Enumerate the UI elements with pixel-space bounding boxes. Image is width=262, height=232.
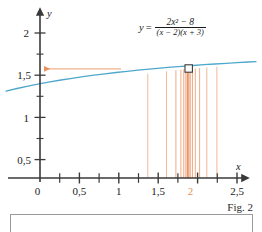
function-formula: y = 2x² − 8 (x − 2)(x + 3) xyxy=(139,17,243,38)
formula-equals: = xyxy=(146,22,155,33)
x-tick-label-0-5: 0,5 xyxy=(73,185,87,197)
x-tick-label-0: 0 xyxy=(35,185,41,197)
x-tick-label-2-5: 2,5 xyxy=(230,185,244,197)
x-tick-label-2: 2 xyxy=(188,185,194,197)
formula-lhs: y xyxy=(139,22,146,33)
formula-numerator: 2x² − 8 xyxy=(164,17,196,27)
y-tick-label-2: 2 xyxy=(24,27,30,39)
formula-denominator: (x − 2)(x + 3) xyxy=(155,28,206,37)
y-tick-label-0-5: 0,5 xyxy=(17,154,31,166)
y-axis-label: y xyxy=(46,8,52,19)
y-axis xyxy=(35,15,46,182)
x-tick-label-1: 1 xyxy=(116,185,122,197)
function-curve xyxy=(6,62,256,92)
x-tick-label-1-5: 1,5 xyxy=(151,185,165,197)
formula-fraction: 2x² − 8 (x − 2)(x + 3) xyxy=(155,17,206,38)
bottom-panel xyxy=(10,214,253,232)
converging-vertical-lines xyxy=(148,67,217,178)
x-axis-label: x xyxy=(235,161,241,172)
y-tick-label-1-5: 1,5 xyxy=(17,69,31,81)
y-tick-label-1: 1 xyxy=(24,112,30,124)
figure-caption: Fig. 2 xyxy=(227,201,253,213)
hole-marker xyxy=(185,65,192,72)
figure-container: 2 1,5 1 0,5 0 0,5 1 1,5 2 2,5 y x Fig. 2… xyxy=(0,0,262,232)
